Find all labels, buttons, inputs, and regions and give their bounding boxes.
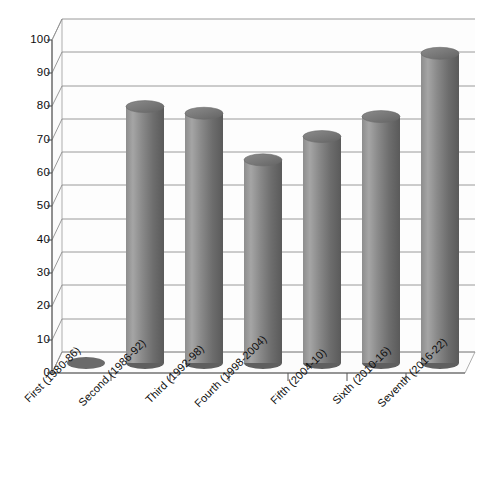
y-tick-label: 10: [16, 334, 50, 346]
y-tick-label: 70: [16, 134, 50, 146]
bar-body: [362, 117, 400, 363]
bar-top-cap: [126, 101, 164, 113]
bar-body: [303, 137, 341, 363]
y-axis-tick-labels: 100 90 80 70 60 50 40 30 20 10 0: [14, 0, 50, 482]
y-tick-label: 20: [16, 300, 50, 312]
y-tick-label: 60: [16, 167, 50, 179]
bar-chart: 100 90 80 70 60 50 40 30 20 10 0 First (…: [0, 0, 491, 482]
bar-body: [421, 53, 459, 363]
bar-top-cap: [303, 131, 341, 143]
bar-body: [126, 107, 164, 363]
bar-cylinder: [303, 131, 341, 369]
y-tick-label: 30: [16, 267, 50, 279]
bar-body: [244, 160, 282, 363]
bar-cylinder: [185, 107, 223, 369]
bar-top-cap: [244, 154, 282, 166]
y-tick-label: 40: [16, 234, 50, 246]
bar-top-cap: [362, 111, 400, 123]
y-tick-label: 80: [16, 100, 50, 112]
cropped-caption: [0, 470, 491, 482]
bar-cylinder: [421, 47, 459, 369]
y-tick-label: 90: [16, 67, 50, 79]
y-tick-label: 50: [16, 200, 50, 212]
bar-top-cap: [421, 47, 459, 59]
bar-cylinder: [126, 101, 164, 369]
y-tick-label: 100: [16, 34, 50, 46]
bar-body: [185, 113, 223, 363]
bar-top-cap: [185, 107, 223, 119]
plot-area: [0, 0, 491, 482]
bar-cylinder: [362, 111, 400, 369]
